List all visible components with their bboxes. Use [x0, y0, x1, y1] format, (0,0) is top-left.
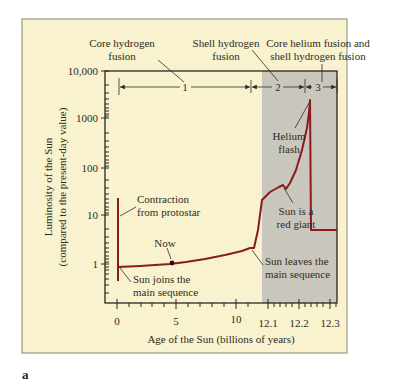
figure-panel-letter: a [22, 367, 29, 383]
annotation-leaves-main-sequence: main sequence [265, 268, 330, 280]
phase2-label: Shell hydrogen [193, 37, 260, 49]
annotation-red-giant: Sun is a [279, 205, 314, 217]
phase2-number: 2 [275, 81, 281, 93]
y-axis-subtitle: (compared to the present-day value) [56, 107, 69, 266]
phase3-label: shell hydrogen fusion [270, 50, 366, 62]
phase2-label: fusion [212, 50, 240, 62]
annotation-joins-main-sequence: main sequence [133, 286, 198, 298]
phase1-label: Core hydrogen [89, 37, 155, 49]
annotation-now: Now [154, 237, 175, 249]
ytick-label: 10 [87, 209, 99, 221]
y-axis-title: Luminosity of the Sun [42, 137, 54, 236]
annotation-helium-flash: flash [278, 143, 300, 155]
solar-luminosity-chart: 10,000 1000 100 10 1 Luminosity of the S… [0, 0, 400, 389]
xtick-label: 10 [231, 313, 243, 325]
xtick-label: 0 [114, 315, 120, 327]
now-marker [170, 261, 175, 266]
ytick-label: 10,000 [68, 65, 99, 77]
xtick-label: 12.2 [289, 317, 308, 329]
ytick-label: 100 [82, 162, 99, 174]
annotation-contraction: from protostar [137, 206, 201, 218]
x-axis-title: Age of the Sun (billions of years) [147, 333, 295, 346]
phase1-number: 1 [182, 81, 188, 93]
annotation-helium-flash: Helium [273, 130, 306, 142]
annotation-red-giant: red giant [277, 218, 316, 230]
annotation-leaves-main-sequence: Sun leaves the [265, 255, 329, 267]
phase3-number: 3 [315, 81, 321, 93]
ytick-label: 1000 [76, 112, 99, 124]
phase1-label: fusion [108, 50, 136, 62]
ytick-label: 1 [93, 258, 99, 270]
xtick-label: 12.3 [320, 317, 340, 329]
phase3-label: Core helium fusion and [266, 37, 370, 49]
annotation-contraction: Contraction [137, 193, 189, 205]
xtick-label: 5 [173, 315, 179, 327]
annotation-joins-main-sequence: Sun joins the [133, 273, 191, 285]
xtick-label: 12.1 [258, 317, 277, 329]
